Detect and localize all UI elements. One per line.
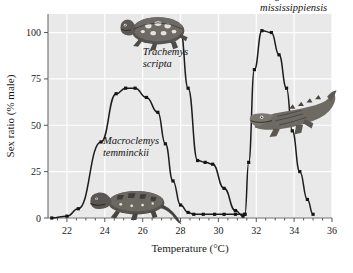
x-axis-ticks: 2224262830323436 bbox=[57, 218, 337, 236]
y-tick-label: 50 bbox=[31, 120, 41, 131]
data-point-marker bbox=[77, 207, 80, 210]
data-point-marker bbox=[115, 92, 118, 95]
y-tick-label: 100 bbox=[26, 27, 41, 38]
data-point-marker bbox=[260, 29, 263, 32]
x-tick-label: 24 bbox=[100, 225, 110, 236]
y-axis-title: Sex ratio (% male) bbox=[4, 74, 17, 157]
data-point-marker bbox=[234, 209, 237, 212]
species-label: Alligatormississippiensis bbox=[259, 0, 327, 13]
data-point-marker bbox=[234, 213, 237, 216]
y-tick-label: 0 bbox=[36, 213, 41, 224]
data-point-marker bbox=[145, 96, 148, 99]
data-point-marker bbox=[204, 161, 207, 164]
data-point-marker bbox=[222, 187, 225, 190]
y-tick-label: 25 bbox=[31, 166, 41, 177]
data-point-marker bbox=[298, 170, 301, 173]
data-point-marker bbox=[192, 213, 195, 216]
data-point-marker bbox=[171, 179, 174, 182]
x-tick-label: 22 bbox=[62, 225, 72, 236]
data-point-marker bbox=[196, 159, 199, 162]
data-point-marker bbox=[202, 213, 205, 216]
data-point-marker bbox=[277, 53, 280, 56]
data-point-marker bbox=[164, 142, 167, 145]
data-point-marker bbox=[270, 31, 273, 34]
data-point-marker bbox=[247, 161, 250, 164]
data-point-marker bbox=[50, 216, 53, 219]
y-tick-label: 75 bbox=[31, 73, 41, 84]
data-point-marker bbox=[211, 163, 214, 166]
data-point-marker bbox=[133, 87, 136, 90]
x-tick-label: 32 bbox=[251, 225, 261, 236]
x-tick-label: 30 bbox=[213, 225, 223, 236]
x-tick-label: 28 bbox=[176, 225, 186, 236]
data-point-marker bbox=[306, 198, 309, 201]
data-point-marker bbox=[222, 213, 225, 216]
x-axis-title: Temperature (°C) bbox=[151, 242, 229, 255]
data-point-marker bbox=[311, 213, 314, 216]
data-point-marker bbox=[187, 211, 190, 214]
data-point-marker bbox=[285, 87, 288, 90]
data-point-marker bbox=[291, 129, 294, 132]
y-axis-ticks: 0255075100 bbox=[26, 27, 48, 223]
data-point-marker bbox=[187, 87, 190, 90]
data-point-marker bbox=[124, 87, 127, 90]
x-tick-label: 34 bbox=[289, 225, 299, 236]
data-point-marker bbox=[243, 213, 246, 216]
data-point-marker bbox=[213, 213, 216, 216]
data-point-marker bbox=[65, 215, 68, 218]
data-point-marker bbox=[253, 68, 256, 71]
x-tick-label: 36 bbox=[327, 225, 337, 236]
data-point-marker bbox=[179, 203, 182, 206]
sex-ratio-temperature-chart: 2224262830323436 0255075100 bbox=[0, 0, 353, 273]
data-point-marker bbox=[156, 111, 159, 114]
x-tick-label: 26 bbox=[138, 225, 148, 236]
